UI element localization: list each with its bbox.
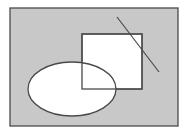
- venn-diagram: [0, 0, 187, 133]
